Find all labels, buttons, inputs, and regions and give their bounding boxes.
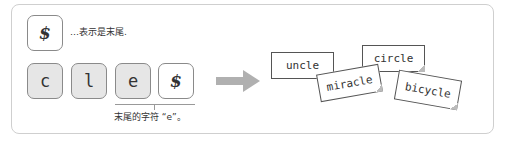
key-char: l: [84, 71, 94, 91]
card-word: miracle: [326, 73, 374, 94]
key-end-symbol: $: [158, 63, 194, 99]
card-word: circle: [374, 52, 414, 65]
legend-symbol: $: [39, 23, 51, 43]
page-curl-icon: [450, 102, 458, 110]
page-curl-icon: [375, 84, 383, 92]
legend-end-symbol-key: $: [27, 15, 63, 51]
key-l: l: [71, 63, 107, 99]
right-arrow-icon: [216, 70, 260, 92]
key-c: c: [27, 63, 63, 99]
bracket-underline: [115, 104, 195, 105]
key-char: e: [128, 71, 138, 91]
key-char: $: [170, 71, 182, 91]
legend-text: …表示是末尾.: [70, 25, 127, 38]
card-word: bicycle: [404, 80, 452, 101]
caption: 末尾的字符 “e”。: [114, 110, 186, 123]
page-curl-icon: [418, 65, 425, 72]
key-char: c: [40, 71, 50, 91]
key-e: e: [115, 63, 151, 99]
card-word: uncle: [286, 59, 319, 72]
